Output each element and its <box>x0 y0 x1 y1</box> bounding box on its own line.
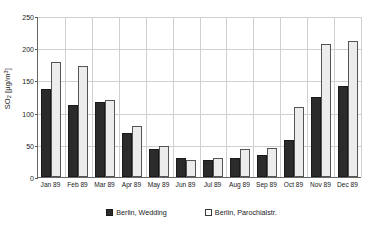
bar-parochialstr[interactable] <box>213 158 223 177</box>
y-axis-tick-label: 0 <box>14 175 34 182</box>
legend-label: Berlin, Parochialstr. <box>215 208 277 217</box>
legend-item[interactable]: Berlin, Parochialstr. <box>205 208 277 217</box>
y-axis-tick-label: 100 <box>14 110 34 117</box>
x-axis-tick-label: Dec 89 <box>334 181 361 193</box>
open-square-icon <box>205 209 212 216</box>
bar-parochialstr[interactable] <box>132 126 142 177</box>
bar-group <box>173 17 200 177</box>
x-axis-tick-label: Jan 89 <box>37 181 64 193</box>
x-axis-tick-label: Apr 89 <box>118 181 145 193</box>
x-axis-tick-label: Jul 89 <box>199 181 226 193</box>
bar-parochialstr[interactable] <box>240 149 250 177</box>
bar-group <box>253 17 280 177</box>
bar-wedding[interactable] <box>311 97 321 177</box>
x-axis-tick-label: Mar 89 <box>91 181 118 193</box>
plot-area <box>37 17 361 178</box>
y-axis-tick-label: 50 <box>14 142 34 149</box>
bar-group <box>65 17 92 177</box>
bar-wedding[interactable] <box>68 105 78 177</box>
x-axis-tick-label: Nov 89 <box>307 181 334 193</box>
x-axis-tick-label: Sep 89 <box>253 181 280 193</box>
bar-wedding[interactable] <box>41 89 51 177</box>
bar-group <box>200 17 227 177</box>
bar-group <box>226 17 253 177</box>
bars-layer <box>38 17 361 177</box>
bar-wedding[interactable] <box>122 133 132 177</box>
y-axis-tick-label: 250 <box>14 14 34 21</box>
bar-group <box>307 17 334 177</box>
bar-group <box>146 17 173 177</box>
chart-legend: Berlin, WeddingBerlin, Parochialstr. <box>0 203 383 221</box>
bar-group <box>119 17 146 177</box>
bar-group <box>280 17 307 177</box>
y-axis-title-base: SO <box>4 99 13 110</box>
gridline-vertical <box>361 17 362 177</box>
bar-parochialstr[interactable] <box>348 41 358 177</box>
bar-group <box>38 17 65 177</box>
y-axis-title-unit-close: ] <box>4 68 13 70</box>
bar-parochialstr[interactable] <box>51 62 61 177</box>
bar-parochialstr[interactable] <box>267 148 277 177</box>
legend-label: Berlin, Wedding <box>116 208 167 217</box>
y-axis-title-superscript: 3 <box>3 71 9 74</box>
bar-wedding[interactable] <box>203 160 213 177</box>
bar-wedding[interactable] <box>284 140 294 177</box>
y-axis-tick-labels: 050100150200250 <box>14 10 34 182</box>
bar-wedding[interactable] <box>338 86 348 177</box>
bar-parochialstr[interactable] <box>159 146 169 177</box>
bar-wedding[interactable] <box>149 149 159 177</box>
y-axis-title-text: SO2 [µg/m3] <box>3 68 12 109</box>
legend-item[interactable]: Berlin, Wedding <box>106 208 167 217</box>
x-axis-tick-label: Oct 89 <box>280 181 307 193</box>
y-axis-title-subscript: 2 <box>7 95 13 98</box>
bar-wedding[interactable] <box>176 158 186 177</box>
x-axis-tick-label: Jun 89 <box>172 181 199 193</box>
bar-parochialstr[interactable] <box>186 160 196 177</box>
y-axis-title-unit-open: [µg/m <box>4 74 13 96</box>
x-axis-tick-label: Aug 89 <box>226 181 253 193</box>
so2-bar-chart: SO2 [µg/m3] 050100150200250 Jan 89Feb 89… <box>0 0 383 226</box>
filled-square-icon <box>106 209 113 216</box>
bar-wedding[interactable] <box>257 155 267 177</box>
bar-parochialstr[interactable] <box>294 107 304 177</box>
x-axis-tick-label: May 89 <box>145 181 172 193</box>
bar-group <box>334 17 361 177</box>
bar-parochialstr[interactable] <box>78 66 88 177</box>
y-axis-tick-label: 150 <box>14 78 34 85</box>
bar-parochialstr[interactable] <box>321 44 331 177</box>
x-axis-tick-label: Feb 89 <box>64 181 91 193</box>
bar-wedding[interactable] <box>95 102 105 177</box>
x-axis-tick-labels: Jan 89Feb 89Mar 89Apr 89May 89Jun 89Jul … <box>37 181 361 193</box>
bar-group <box>92 17 119 177</box>
y-axis-tick-mark <box>35 178 38 179</box>
bar-parochialstr[interactable] <box>105 100 115 177</box>
y-axis-tick-label: 200 <box>14 46 34 53</box>
bar-wedding[interactable] <box>230 158 240 177</box>
